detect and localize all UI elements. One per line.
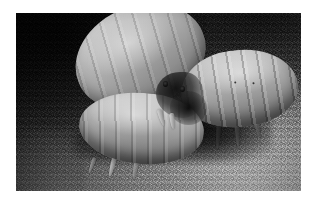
photograph: [16, 13, 301, 191]
photo-frame: [16, 13, 301, 191]
eye-spot-right: [180, 86, 185, 92]
mandible-cluster: [170, 91, 207, 125]
page-root: [0, 0, 316, 203]
eye-spot-left: [163, 81, 168, 87]
